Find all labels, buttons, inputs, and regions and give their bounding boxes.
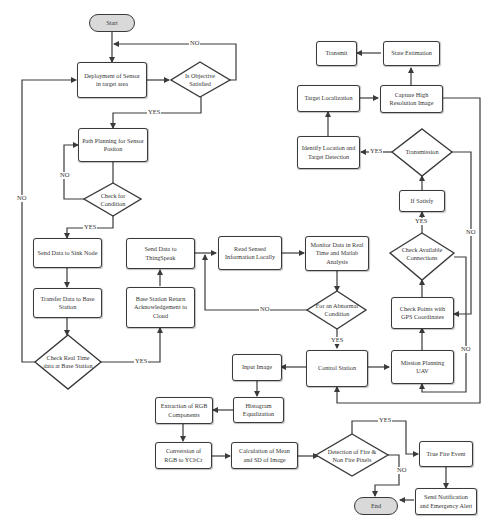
edge-label-yes: YES [134, 358, 148, 365]
path-planning-box: Path Planning for Sensor Positon [78, 128, 148, 162]
monitor-data-box: Monitor Data in Real Time and Matlab Ana… [305, 236, 369, 271]
deploy-sensor-label: Deployment of Sensor in target area [81, 72, 143, 89]
edge-label-no: NO [460, 346, 471, 353]
true-fire-box: True Fire Event [419, 441, 473, 467]
calc-mean-box: Calculation of Mean and SD of Image [231, 442, 298, 469]
check-points-box: Check Points with GPS Coordinates [391, 297, 454, 329]
base-return-label: Base Station Return Acknowledgement to C… [130, 295, 191, 320]
conversion-label: Conversion of RGB to YCbCr [159, 447, 208, 464]
check-points-label: Check Points with GPS Coordinates [395, 305, 450, 322]
edge-label-no: NO [16, 195, 27, 202]
control-station-box: Control Station [306, 350, 368, 387]
transfer-base-label: Transfer Data to Base Station [37, 295, 98, 312]
read-sensed-label: Read Sensed Information Locally [222, 245, 278, 262]
if-satisfy-box: If Satisfy [399, 190, 445, 212]
decision-fire: Detection of Fire & Non Fire Pixels [326, 443, 378, 469]
conversion-box: Conversion of RGB to YCbCr [155, 442, 212, 469]
control-station-label: Control Station [318, 364, 356, 372]
decision-transmission: Transmission [397, 146, 447, 158]
send-notification-label: Send Notification and Emergency Alert [419, 493, 473, 510]
decision-realtime: Check Real Time data at Base Station [42, 352, 94, 372]
edge-label-yes: YES [378, 417, 392, 424]
decision-available-label: Check Available Connections [399, 246, 445, 263]
send-thingspeak-label: Send Data to ThingSpeak [130, 245, 191, 262]
edge-label-yes: YES [83, 224, 97, 231]
path-planning-label: Path Planning for Sensor Positon [82, 137, 144, 154]
end-terminal: End [354, 497, 398, 515]
edge-label-yes: YES [147, 109, 161, 116]
decision-fire-label: Detection of Fire & Non Fire Pixels [326, 448, 378, 465]
transfer-base-box: Transfer Data to Base Station [33, 288, 102, 318]
decision-abnormal-label: For an Abnormal Condition [313, 302, 361, 319]
decision-abnormal: For an Abnormal Condition [313, 300, 361, 320]
target-localization-box: Target Localization [297, 85, 360, 112]
edge-label-yes: YES [369, 148, 383, 155]
send-thingspeak-box: Send Data to ThingSpeak [126, 238, 195, 269]
edge-label-yes: YES [414, 218, 428, 225]
start-terminal: Start [89, 14, 135, 32]
target-localization-label: Target Localization [304, 94, 352, 102]
edge-label-no: NO [465, 229, 476, 236]
base-return-box: Base Station Return Acknowledgement to C… [126, 287, 195, 328]
calc-mean-label: Calculation of Mean and SD of Image [235, 447, 294, 464]
state-estimation-box: State Estimation [383, 41, 440, 66]
read-sensed-box: Read Sensed Information Locally [218, 236, 282, 270]
decision-available: Check Available Connections [399, 244, 445, 264]
edge-label-no: NO [259, 306, 270, 313]
deploy-sensor-box: Deployment of Sensor in target area [77, 62, 147, 98]
if-satisfy-label: If Satisfy [411, 197, 434, 205]
decision-transmission-label: Transmission [405, 148, 438, 156]
decision-objective: Is Objective Satisfied [180, 70, 220, 90]
decision-realtime-label: Check Real Time data at Base Station [42, 354, 94, 371]
edge-label-yes: YES [330, 337, 344, 344]
send-notification-box: Send Notification and Emergency Alert [415, 488, 477, 515]
send-sink-box: Send Data to Sink Node [33, 238, 102, 268]
start-label: Start [106, 19, 118, 27]
send-sink-label: Send Data to Sink Node [38, 249, 98, 257]
input-image-label: Input Image [242, 363, 272, 371]
state-estimation-label: State Estimation [391, 49, 432, 57]
true-fire-label: True Fire Event [427, 450, 466, 458]
end-label: End [371, 502, 381, 510]
extraction-rgb-label: Extraction of RGB Components [159, 402, 209, 419]
decision-check-condition-label: Check for Condition [95, 192, 131, 209]
capture-image-box: Capture High Resolution Image [380, 85, 443, 113]
input-image-box: Input Image [232, 354, 282, 381]
decision-objective-label: Is Objective Satisfied [180, 72, 220, 89]
histogram-box: Histogram Equalization [233, 397, 284, 423]
edge-label-no: NO [189, 40, 200, 47]
identify-location-label: Identify Location and Target Detection [301, 144, 356, 161]
capture-image-label: Capture High Resolution Image [384, 91, 439, 108]
mission-planning-label: Mission Planning UAV [395, 359, 450, 376]
decision-check-condition: Check for Condition [95, 190, 131, 210]
edge-label-no: NO [59, 172, 70, 179]
mission-planning-box: Mission Planning UAV [391, 350, 454, 384]
identify-location-box: Identify Location and Target Detection [297, 136, 360, 169]
edge-label-no: NO [396, 467, 407, 474]
transmit-box: Transmit [316, 41, 357, 66]
extraction-rgb-box: Extraction of RGB Components [155, 397, 213, 424]
monitor-data-label: Monitor Data in Real Time and Matlab Ana… [309, 241, 365, 266]
transmit-label: Transmit [325, 49, 347, 57]
histogram-label: Histogram Equalization [237, 402, 280, 419]
